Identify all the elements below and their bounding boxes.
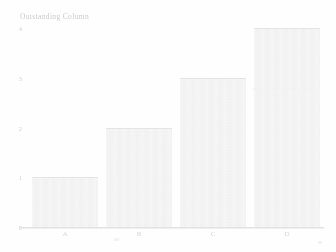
x-axis: A B C D xyxy=(28,230,324,246)
x-tick-label-d: D xyxy=(284,230,289,238)
y-tick-label-3: 3 xyxy=(19,74,22,81)
x-tick-label-b: B xyxy=(137,230,142,238)
x-axis-line xyxy=(20,227,324,228)
bar-chart: Outstanding Column 0 1 2 3 4 A B C D xyxy=(0,0,336,252)
bar-b xyxy=(106,128,171,228)
bar-a xyxy=(32,177,97,227)
x-tick-label-c: C xyxy=(211,230,216,238)
bar-c xyxy=(180,78,245,227)
y-tick-label-1: 1 xyxy=(19,174,22,181)
y-tick-label-2: 2 xyxy=(19,124,22,131)
bar-texture xyxy=(180,79,245,227)
y-axis: 0 1 2 3 4 xyxy=(0,28,28,227)
bar-texture xyxy=(254,29,319,227)
y-tick-label-4: 4 xyxy=(19,25,22,32)
bar-texture xyxy=(32,178,97,227)
bar-texture xyxy=(106,129,171,228)
chart-title: Outstanding Column xyxy=(20,12,89,21)
plot-area xyxy=(28,28,324,227)
bar-d xyxy=(254,28,319,227)
x-tick-label-a: A xyxy=(62,230,67,238)
bars-layer xyxy=(28,28,324,227)
